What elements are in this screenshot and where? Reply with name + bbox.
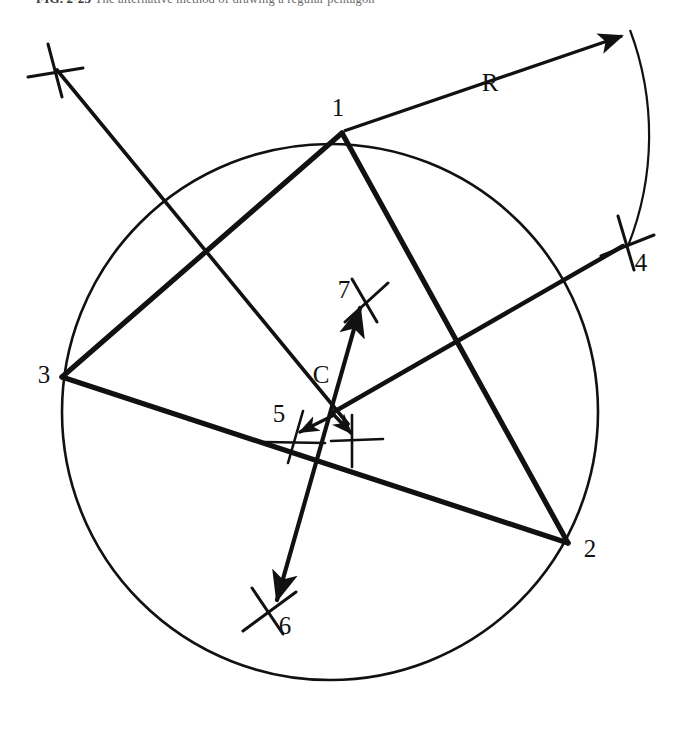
chord-1-3 — [62, 133, 342, 377]
radius-dimension-arc — [628, 30, 649, 246]
label-radius-r: R — [482, 69, 499, 96]
label-point-6: 6 — [279, 612, 292, 639]
label-point-1: 1 — [332, 94, 345, 121]
line-upper-left-tick-through-center — [57, 70, 348, 424]
label-point-7: 7 — [338, 276, 351, 303]
label-point-4: 4 — [635, 249, 648, 276]
tick-point-7 — [345, 279, 388, 322]
figure-root: FIG. 2-23 The alternative method of draw… — [0, 0, 684, 733]
line-center-to-point-4 — [332, 246, 623, 413]
tick-unlabeled-right-of-center — [331, 415, 383, 467]
label-point-2: 2 — [584, 535, 597, 562]
label-center-c: C — [313, 361, 330, 388]
label-point-5: 5 — [273, 400, 286, 427]
label-point-3: 3 — [38, 361, 51, 388]
construction-drawing: 1 2 3 4 5 6 7 C R — [0, 0, 684, 733]
